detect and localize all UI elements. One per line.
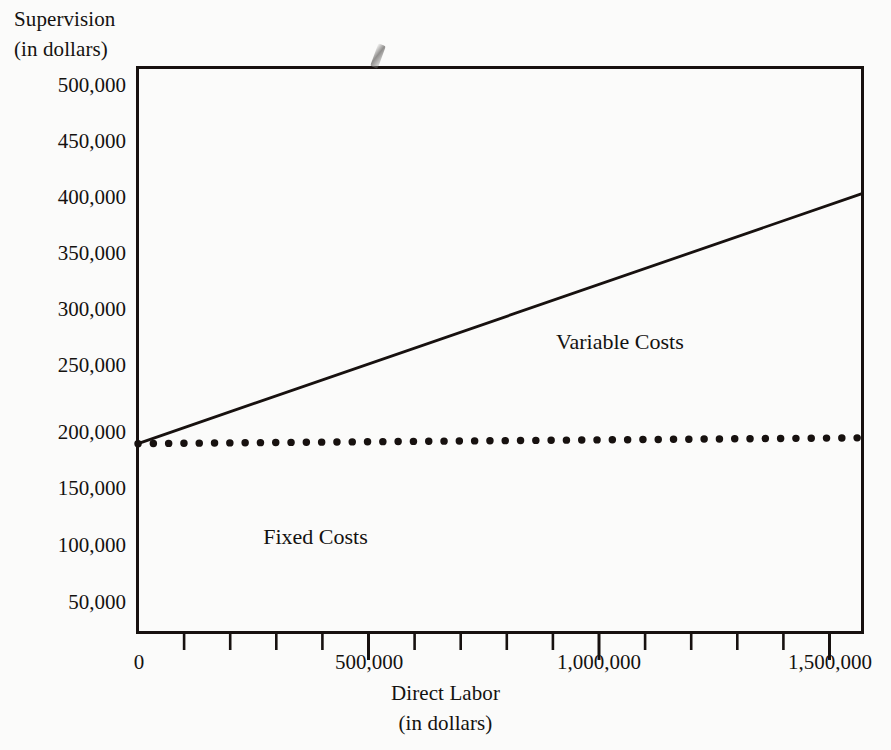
- x-tick-label: 1,000,000: [557, 652, 641, 673]
- x-axis-title-line2: (in dollars): [0, 708, 891, 738]
- x-tick-label: 1,500,000: [788, 652, 872, 673]
- y-tick-label: 100,000: [8, 535, 126, 556]
- plot-area-frame: [136, 66, 864, 634]
- y-tick-label: 500,000: [8, 75, 126, 96]
- x-axis-title-line1: Direct Labor: [0, 678, 891, 708]
- y-tick-label: 300,000: [8, 299, 126, 320]
- cost-behavior-chart: Supervision (in dollars) 500,000 450,000…: [0, 0, 891, 750]
- y-tick-label: 450,000: [8, 131, 126, 152]
- x-tick-label: 0: [134, 652, 145, 673]
- y-axis-tick-labels: 500,000 450,000 400,000 350,000 300,000 …: [8, 0, 126, 750]
- variable-costs-annotation: Variable Costs: [556, 331, 684, 353]
- y-tick-label: 350,000: [8, 243, 126, 264]
- x-tick-label: 500,000: [335, 652, 403, 673]
- y-tick-label: 50,000: [8, 592, 126, 613]
- y-tick-label: 250,000: [8, 355, 126, 376]
- scan-artifact-smudge: [370, 43, 386, 68]
- x-axis-minor-ticks: [184, 634, 783, 650]
- y-tick-label: 150,000: [8, 478, 126, 499]
- y-tick-label: 200,000: [8, 422, 126, 443]
- x-axis-title: Direct Labor (in dollars): [0, 678, 891, 738]
- fixed-costs-annotation: Fixed Costs: [263, 526, 368, 548]
- y-tick-label: 400,000: [8, 187, 126, 208]
